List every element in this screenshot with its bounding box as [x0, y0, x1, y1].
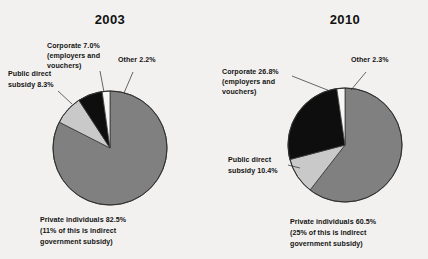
annotation-private-individuals-2003: Private individuals 82.5% (11% of this i… — [40, 216, 127, 246]
annotation-corporate-2003-line1: Corporate 7.0% — [47, 42, 100, 50]
annotation-corporate-2003-line3: vouchers) — [47, 62, 82, 70]
annotation-private-individuals-2010-line3: government subsidy) — [290, 240, 363, 248]
leader-line-corporate-2010 — [292, 76, 330, 91]
pie-slices-2003 — [53, 91, 167, 205]
annotation-private-individuals-2010: Private individuals 60.5% (25% of this i… — [290, 218, 377, 248]
annotation-public-subsidy-2010-line2: subsidy 10.4% — [228, 167, 278, 175]
annotation-private-individuals-2003-line3: government subsidy) — [40, 238, 113, 246]
annotation-public-subsidy-2010-line1: Public direct — [228, 156, 272, 164]
annotation-public-subsidy-2003-line1: Public direct — [8, 70, 52, 78]
annotation-public-subsidy-2003-line2: subsidy 8.3% — [8, 81, 54, 89]
annotation-other-2010: Other 2.3% — [351, 56, 389, 64]
annotation-private-individuals-2003-line1: Private individuals 82.5% — [40, 216, 127, 224]
leader-line-other-2010 — [351, 72, 366, 90]
annotation-private-individuals-2003-line2: (11% of this is indirect — [40, 227, 117, 235]
annotation-corporate-2010-line2: (employers and — [222, 78, 275, 86]
annotation-private-individuals-2010-line2: (25% of this is indirect — [290, 229, 367, 237]
chart-2010: 2010 Corporate 26.8% (employers and vouc… — [222, 12, 402, 248]
annotation-private-individuals-2010-line1: Private individuals 60.5% — [290, 218, 377, 226]
annotation-public-subsidy-2003: Public direct subsidy 8.3% — [8, 70, 54, 89]
chart-title-2010: 2010 — [330, 12, 361, 27]
annotation-corporate-2010-line3: vouchers) — [222, 88, 257, 96]
annotation-corporate-2003-line2: (employers and — [47, 52, 100, 60]
leader-line-corporate-2003 — [100, 71, 104, 92]
leader-line-other-2003 — [124, 72, 133, 93]
pie-slices-2010 — [288, 88, 402, 202]
annotation-corporate-2003: Corporate 7.0% (employers and vouchers) — [47, 42, 100, 70]
annotation-corporate-2010: Corporate 26.8% (employers and vouchers) — [222, 68, 279, 96]
annotation-other-2003: Other 2.2% — [118, 56, 156, 64]
chart-title-2003: 2003 — [95, 12, 126, 27]
annotation-corporate-2010-line1: Corporate 26.8% — [222, 68, 279, 76]
annotation-public-subsidy-2010: Public direct subsidy 10.4% — [228, 156, 278, 175]
leader-line-public-2003 — [58, 91, 72, 104]
two-pie-chart-figure: 2003 Corporate 7.0% (employers and vouch… — [0, 0, 428, 259]
chart-2003: 2003 Corporate 7.0% (employers and vouch… — [8, 12, 167, 246]
